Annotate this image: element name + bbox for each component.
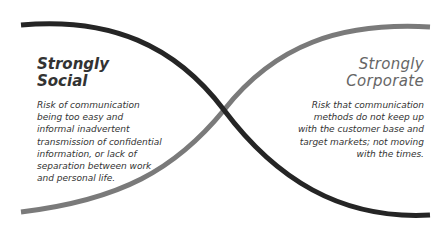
title-line: Corporate xyxy=(254,73,424,90)
description-line: with the customer base and xyxy=(254,123,424,135)
description-line: separation between work xyxy=(37,160,167,172)
title-line: Strongly xyxy=(37,56,167,73)
strongly-social-panel: Strongly Social Risk of communication be… xyxy=(37,56,167,184)
description-line: with the times. xyxy=(254,148,424,160)
strongly-social-title: Strongly Social xyxy=(37,56,167,90)
description-line: being too easy and xyxy=(37,111,167,123)
strongly-corporate-description: Risk that communication methods do not k… xyxy=(254,99,424,160)
description-line: transmission of confidential xyxy=(37,136,167,148)
description-line: informal inadvertent xyxy=(37,123,167,135)
strongly-social-description: Risk of communication being too easy and… xyxy=(37,99,167,184)
description-line: target markets; not moving xyxy=(254,136,424,148)
description-line: Risk of communication xyxy=(37,99,167,111)
title-line: Strongly xyxy=(254,56,424,73)
title-line: Social xyxy=(37,73,167,90)
description-line: Risk that communication xyxy=(254,99,424,111)
description-line: methods do not keep up xyxy=(254,111,424,123)
strongly-corporate-panel: Strongly Corporate Risk that communicati… xyxy=(254,56,424,160)
description-line: information, or lack of xyxy=(37,148,167,160)
strongly-corporate-title: Strongly Corporate xyxy=(254,56,424,90)
description-line: and personal life. xyxy=(37,172,167,184)
